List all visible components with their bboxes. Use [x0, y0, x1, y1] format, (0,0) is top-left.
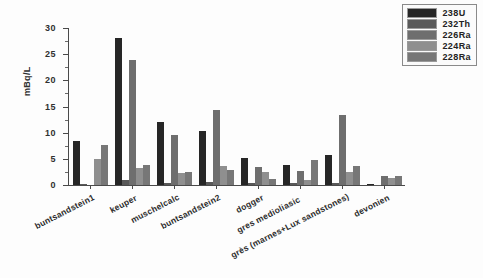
- bar: [304, 180, 311, 185]
- bar: [255, 167, 262, 185]
- bar: [164, 183, 171, 185]
- x-axis-tick: [216, 185, 217, 189]
- legend-swatch: [407, 41, 437, 51]
- bar: [185, 172, 192, 185]
- chart-page: 051015202530 mBq/L buntsandstein1keuperm…: [0, 0, 483, 278]
- bar: [80, 184, 87, 185]
- x-axis-label: keuper: [108, 193, 138, 215]
- x-axis-label: gres medioliasic: [235, 195, 302, 236]
- legend-item: 238U: [407, 8, 471, 18]
- bar: [395, 176, 402, 185]
- x-axis-label: grès (marnes+Lux sandstones): [229, 191, 351, 260]
- bar-group: [363, 28, 405, 185]
- legend-item: 224Ra: [407, 41, 471, 51]
- y-axis-minor-tick: [65, 120, 68, 121]
- x-axis-tick: [300, 185, 301, 189]
- bar: [332, 183, 339, 185]
- bars-layer: [69, 28, 405, 185]
- y-axis-tick: 0: [63, 185, 68, 186]
- bar: [325, 155, 332, 185]
- bar: [178, 173, 185, 185]
- y-axis-tick: 25: [63, 54, 68, 55]
- bar: [199, 131, 206, 185]
- y-axis-minor-tick: [65, 41, 68, 42]
- x-axis-label: dogger: [234, 193, 265, 216]
- y-axis-tick-label: 30: [45, 23, 56, 33]
- legend-swatch: [407, 8, 437, 18]
- x-axis-tick: [258, 185, 259, 189]
- y-axis-tick: 20: [63, 80, 68, 81]
- bar-group: [321, 28, 363, 185]
- y-axis-minor-tick: [65, 172, 68, 173]
- plot-area: 051015202530: [68, 28, 398, 186]
- bar: [115, 38, 122, 185]
- bar: [213, 110, 220, 185]
- legend-label: 232Th: [442, 19, 470, 29]
- bar-group: [279, 28, 321, 185]
- legend-label: 228Ra: [442, 52, 471, 62]
- legend-swatch: [407, 19, 437, 29]
- x-axis-tick: [90, 185, 91, 189]
- bar: [248, 183, 255, 185]
- x-axis-label: muschelcalc: [129, 192, 181, 225]
- x-axis-label: devonien: [352, 193, 391, 220]
- bar-group: [153, 28, 195, 185]
- bar: [101, 145, 108, 185]
- bar: [269, 179, 276, 185]
- bar: [290, 183, 297, 185]
- y-axis-tick-label: 10: [45, 128, 56, 138]
- bar: [220, 166, 227, 185]
- legend-item: 226Ra: [407, 30, 471, 40]
- bar: [143, 165, 150, 185]
- bar: [227, 170, 234, 185]
- bar: [381, 176, 388, 185]
- y-axis-tick: 30: [63, 28, 68, 29]
- bar: [122, 180, 129, 185]
- bar: [297, 171, 304, 185]
- bar: [353, 166, 360, 185]
- y-axis-tick: 5: [63, 159, 68, 160]
- bar: [206, 182, 213, 185]
- y-axis-tick-label: 0: [50, 180, 56, 190]
- x-axis-label: buntsandstein1: [33, 193, 96, 232]
- bar-group: [195, 28, 237, 185]
- x-axis-line: [68, 185, 405, 186]
- x-axis-tick: [384, 185, 385, 189]
- legend-swatch: [407, 30, 437, 40]
- bar: [367, 184, 374, 185]
- legend-label: 226Ra: [442, 30, 471, 40]
- bar: [311, 160, 318, 185]
- legend-item: 232Th: [407, 19, 471, 29]
- x-axis-tick: [174, 185, 175, 189]
- y-axis-tick-label: 15: [45, 102, 56, 112]
- bar: [136, 168, 143, 185]
- x-axis-label: buntsandstein2: [159, 193, 222, 232]
- y-axis-title: mBq/L: [22, 67, 32, 97]
- bar: [129, 60, 136, 185]
- bar: [157, 122, 164, 185]
- bar: [283, 165, 290, 185]
- bar-group: [111, 28, 153, 185]
- legend-swatch: [407, 52, 437, 62]
- x-axis-tick: [342, 185, 343, 189]
- x-axis-tick: [132, 185, 133, 189]
- bar: [171, 135, 178, 185]
- bar: [241, 158, 248, 185]
- legend: 238U232Th226Ra224Ra228Ra: [402, 4, 477, 66]
- y-axis-minor-tick: [65, 146, 68, 147]
- legend-label: 238U: [442, 8, 465, 18]
- bar: [346, 172, 353, 185]
- bar: [262, 172, 269, 185]
- y-axis-minor-tick: [65, 67, 68, 68]
- bar: [94, 159, 101, 185]
- legend-item: 228Ra: [407, 52, 471, 62]
- bar: [73, 141, 80, 185]
- bar: [388, 178, 395, 185]
- y-axis-tick-label: 20: [45, 75, 56, 85]
- y-axis-tick: 10: [63, 133, 68, 134]
- y-axis-tick-label: 25: [45, 49, 56, 59]
- y-axis-minor-tick: [65, 93, 68, 94]
- y-axis-tick-label: 5: [50, 154, 56, 164]
- legend-label: 224Ra: [442, 41, 471, 51]
- y-axis-tick: 15: [63, 107, 68, 108]
